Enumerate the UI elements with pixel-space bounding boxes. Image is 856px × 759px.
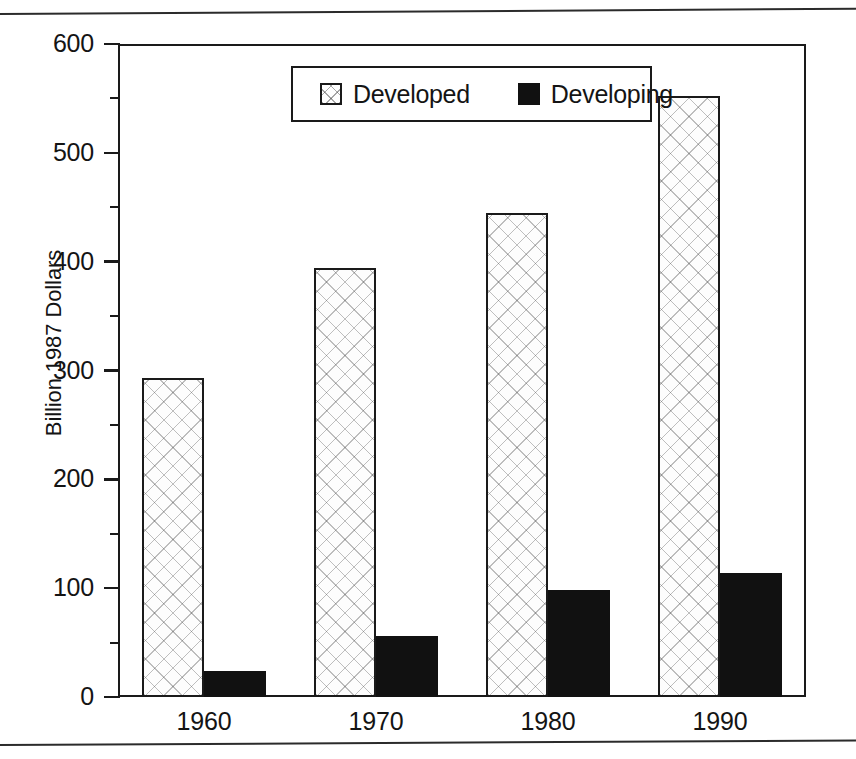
- bar-developing-1960: [204, 671, 266, 697]
- x-tick-label: 1990: [650, 707, 790, 736]
- bar-developed-1990: [658, 96, 720, 697]
- legend-label-developed: Developed: [353, 80, 470, 109]
- bar-developed-1980: [486, 213, 548, 697]
- y-tick-label: 0: [0, 684, 94, 709]
- chart-legend: Developed Developing: [291, 66, 652, 122]
- y-tick-label: 100: [0, 575, 94, 600]
- bar-developing-1990: [720, 573, 782, 697]
- legend-swatch-developing-icon: [518, 83, 540, 105]
- bar-chart-figure: Billion 1987 Dollars 0100200300400500600…: [0, 0, 856, 759]
- y-axis-title: Billion 1987 Dollars: [41, 203, 67, 483]
- x-tick-label: 1960: [134, 707, 274, 736]
- y-tick-label: 300: [0, 358, 94, 383]
- y-tick-label: 200: [0, 466, 94, 491]
- x-tick-label: 1980: [478, 707, 618, 736]
- bar-developed-1960: [142, 378, 204, 697]
- x-tick-label: 1970: [306, 707, 446, 736]
- legend-swatch-developed-icon: [320, 83, 342, 105]
- bars-layer: [118, 44, 806, 697]
- y-tick-label: 600: [0, 31, 94, 56]
- bar-developing-1980: [548, 590, 610, 697]
- legend-entry-developed: Developed: [320, 80, 470, 109]
- y-tick-label: 500: [0, 140, 94, 165]
- bar-developing-1970: [376, 636, 438, 697]
- bar-developed-1970: [314, 268, 376, 697]
- y-tick-label: 400: [0, 249, 94, 274]
- legend-label-developing: Developing: [551, 80, 673, 109]
- legend-entry-developing: Developing: [518, 80, 673, 109]
